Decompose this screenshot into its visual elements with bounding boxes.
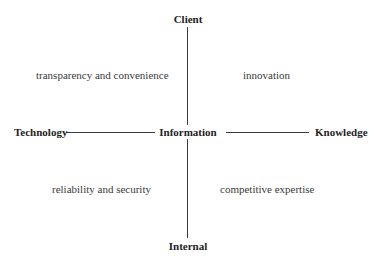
axis-label-client: Client (168, 13, 208, 26)
quadrant-bottom-right: competitive expertise (220, 183, 314, 196)
axis-line-left (66, 132, 155, 133)
axis-line-bottom (187, 139, 188, 238)
axis-label-technology: Technology (14, 126, 67, 139)
quadrant-top-right: innovation (243, 69, 290, 82)
axis-label-internal: Internal (163, 240, 213, 253)
axis-line-right (226, 132, 309, 133)
axis-line-top (187, 27, 188, 125)
quadrant-bottom-left: reliability and security (52, 183, 151, 196)
quadrant-top-left: transparency and convenience (36, 69, 169, 82)
center-label-information: Information (158, 126, 218, 139)
axis-label-knowledge: Knowledge (315, 126, 368, 139)
